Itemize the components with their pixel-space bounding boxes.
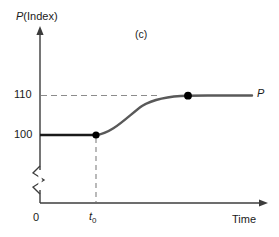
marker-point-t0 — [92, 131, 99, 138]
x-tick-label-t0: t0 — [89, 211, 97, 225]
y-tick-label-100: 100 — [14, 129, 32, 140]
figure-panel-c: P(Index) (c) 110 100 0 t0 Time P — [0, 0, 279, 237]
y-axis-arrowhead — [36, 26, 43, 35]
y-tick-label-110: 110 — [14, 89, 32, 100]
x-axis-arrowhead — [259, 199, 268, 206]
y-axis-break-mask — [38, 170, 41, 190]
x-tick-label-t0-subscript: 0 — [92, 216, 96, 225]
marker-point-adjusted — [184, 92, 192, 100]
panel-label: (c) — [135, 29, 147, 40]
series-label-p: P — [257, 88, 264, 99]
y-axis-label: P(Index) — [16, 11, 58, 22]
y-axis-label-unit: (Index) — [23, 10, 57, 22]
adjustment-curve — [96, 96, 252, 136]
x-axis-label: Time — [232, 214, 256, 225]
x-tick-label-origin: 0 — [33, 212, 39, 223]
